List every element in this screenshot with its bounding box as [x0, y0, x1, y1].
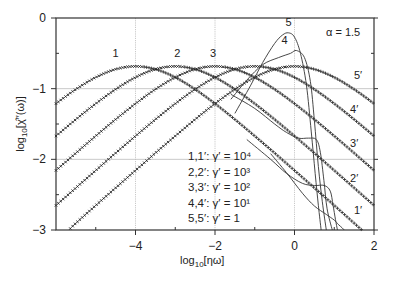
plus-marker: [350, 116, 353, 119]
cross-marker: [153, 120, 155, 122]
cross-marker: [71, 121, 73, 123]
plus-marker: [302, 109, 305, 112]
plus-marker: [336, 172, 339, 175]
cross-marker: [119, 182, 121, 184]
plus-marker: [369, 100, 372, 103]
cross-marker: [74, 223, 76, 225]
cross-marker: [81, 146, 83, 148]
cross-marker: [181, 73, 183, 75]
plus-marker: [298, 106, 301, 109]
cross-marker: [145, 94, 147, 96]
plus-marker: [314, 89, 317, 92]
cross-marker: [167, 108, 169, 110]
plus-marker: [355, 154, 358, 157]
plus-marker: [248, 98, 251, 101]
cross-marker: [95, 76, 97, 78]
plus-marker: [236, 120, 239, 123]
cross-marker: [117, 150, 119, 152]
cross-marker: [93, 171, 95, 173]
plus-marker: [338, 174, 341, 177]
cross-marker: [267, 70, 269, 72]
cross-marker: [136, 75, 138, 77]
cross-marker: [71, 189, 73, 191]
cross-marker: [126, 81, 128, 83]
cross-marker: [143, 96, 145, 98]
plus-marker: [362, 94, 365, 97]
cross-marker: [79, 115, 81, 117]
plus-marker: [238, 122, 241, 125]
cross-marker: [83, 144, 85, 146]
cross-marker: [126, 66, 128, 68]
plus-marker: [186, 66, 189, 69]
cross-marker: [186, 125, 188, 127]
cross-marker: [157, 86, 159, 88]
cross-marker: [103, 197, 105, 199]
cross-marker: [86, 177, 88, 179]
cross-marker: [60, 99, 62, 101]
cross-marker: [124, 66, 126, 68]
plus-marker: [281, 93, 284, 96]
cross-marker: [105, 160, 107, 162]
plus-marker: [293, 102, 296, 105]
cross-marker: [138, 131, 140, 133]
plus-marker: [295, 104, 298, 107]
plus-marker: [302, 177, 305, 180]
cross-marker: [134, 135, 136, 137]
cross-marker: [71, 90, 73, 92]
plus-marker: [279, 92, 282, 95]
plus-marker: [198, 90, 201, 93]
plus-marker: [345, 145, 348, 148]
cross-marker: [60, 165, 62, 167]
cross-marker: [100, 164, 102, 166]
cross-marker: [203, 82, 205, 84]
cross-marker: [114, 68, 116, 70]
cross-marker: [296, 65, 298, 67]
cross-marker: [119, 85, 121, 87]
plus-marker: [302, 143, 305, 146]
cross-marker: [100, 73, 102, 75]
cross-marker: [160, 67, 162, 69]
cross-marker: [172, 65, 174, 67]
curve-label: 4: [282, 34, 288, 46]
cross-marker: [64, 196, 66, 198]
plus-marker: [329, 200, 332, 203]
cross-marker: [60, 200, 62, 202]
cross-marker: [117, 67, 119, 69]
plus-marker: [357, 156, 360, 159]
cross-marker: [129, 79, 131, 81]
cross-marker: [138, 65, 140, 67]
cross-marker: [136, 133, 138, 135]
cross-marker: [62, 198, 64, 200]
legend: 1,1′: γ′ = 10⁴2,2′: γ′ = 10³3,3′: γ′ = 1…: [188, 150, 251, 224]
cross-marker: [229, 70, 231, 72]
plus-marker: [307, 181, 310, 184]
cross-marker: [69, 92, 71, 94]
cross-marker: [86, 142, 88, 144]
cross-marker: [169, 139, 171, 141]
cross-marker: [98, 201, 100, 203]
solid-curve-2: [247, 140, 338, 230]
plus-marker: [262, 142, 265, 145]
plus-marker: [288, 165, 291, 168]
cross-marker: [138, 99, 140, 101]
cross-marker: [114, 152, 116, 154]
plus-marker: [326, 163, 329, 166]
cross-marker: [243, 66, 245, 68]
cross-marker: [138, 74, 140, 76]
cross-marker: [67, 94, 69, 96]
plus-marker: [291, 167, 294, 170]
cross-marker: [98, 132, 100, 134]
legend-entry: 2,2′: γ′ = 10³: [188, 166, 250, 178]
cross-marker: [126, 176, 128, 178]
cross-marker: [81, 113, 83, 115]
plus-marker: [317, 121, 320, 124]
cross-marker: [74, 119, 76, 121]
y-axis-title: log10[χ̂′′(ω)]: [14, 96, 29, 152]
plus-marker: [353, 151, 356, 154]
plus-marker: [329, 99, 332, 102]
cross-marker: [227, 93, 229, 95]
cross-marker: [107, 124, 109, 126]
cross-marker: [212, 65, 214, 67]
cross-marker: [110, 122, 112, 124]
plus-marker: [329, 131, 332, 134]
